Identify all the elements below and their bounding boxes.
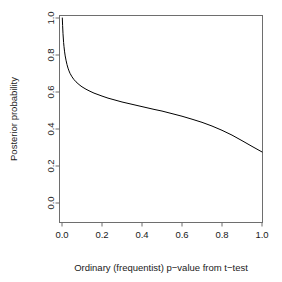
x-tick-label: 0.0 [55, 229, 68, 240]
x-tick-label: 0.4 [135, 229, 148, 240]
posterior-probability-line-chart: 0.00.20.40.60.81.0 0.00.20.40.60.81.0 Or… [0, 0, 282, 282]
y-tick-label: 0.8 [45, 48, 56, 61]
x-tick-label: 0.8 [215, 229, 228, 240]
chart-container: 0.00.20.40.60.81.0 0.00.20.40.60.81.0 Or… [0, 0, 282, 282]
x-axis-ticks [62, 223, 262, 227]
y-tick-label: 0.0 [45, 196, 56, 209]
y-tick-label: 0.6 [45, 85, 56, 98]
y-axis-tick-labels: 0.00.20.40.60.81.0 [45, 11, 56, 209]
y-axis-ticks [56, 18, 60, 203]
x-tick-label: 0.6 [175, 229, 188, 240]
x-axis-title: Ordinary (frequentist) p−value from t−te… [74, 262, 248, 273]
y-tick-label: 0.4 [45, 122, 56, 135]
x-tick-label: 1.0 [255, 229, 268, 240]
x-axis-tick-labels: 0.00.20.40.60.81.0 [55, 229, 268, 240]
x-tick-label: 0.2 [95, 229, 108, 240]
posterior-probability-curve [62, 18, 262, 152]
y-axis-title: Posterior probability [8, 77, 19, 161]
y-tick-label: 1.0 [45, 11, 56, 24]
y-tick-label: 0.2 [45, 159, 56, 172]
plot-frame [60, 16, 263, 223]
